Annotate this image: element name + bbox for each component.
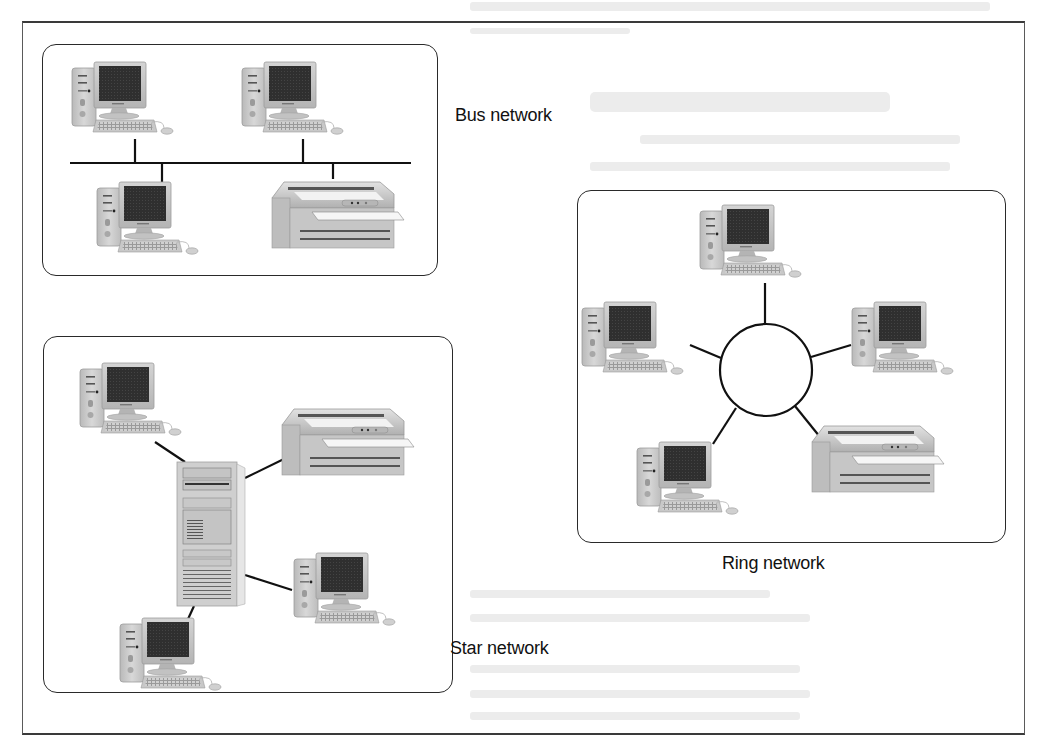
server-tower-icon xyxy=(177,462,245,606)
computer-icon xyxy=(294,553,395,625)
computer-icon xyxy=(242,62,343,134)
computer-icon xyxy=(852,302,953,374)
ring-circle xyxy=(720,324,812,416)
printer-icon xyxy=(272,182,404,248)
printer-icon xyxy=(812,426,944,492)
ring-spoke-line xyxy=(811,345,851,357)
computer-icon xyxy=(637,442,738,514)
computer-icon xyxy=(72,62,173,134)
ring-links xyxy=(690,283,851,444)
printer-icon xyxy=(282,409,414,475)
computer-icon xyxy=(97,182,198,254)
computer-icon xyxy=(582,302,683,374)
star-link-line xyxy=(155,442,185,462)
computer-icon xyxy=(700,205,801,277)
star-link-line xyxy=(245,457,288,478)
computer-icon xyxy=(120,618,221,690)
star-link-line xyxy=(245,575,292,590)
bus-links xyxy=(70,139,411,183)
ring-spoke-line xyxy=(713,408,736,444)
ring-network xyxy=(582,205,953,514)
star-network xyxy=(80,363,414,690)
bus-network xyxy=(70,62,411,254)
network-diagrams xyxy=(0,0,1046,755)
ring-spoke-line xyxy=(690,345,721,358)
ring-spoke-line xyxy=(795,406,820,437)
computer-icon xyxy=(80,363,181,435)
